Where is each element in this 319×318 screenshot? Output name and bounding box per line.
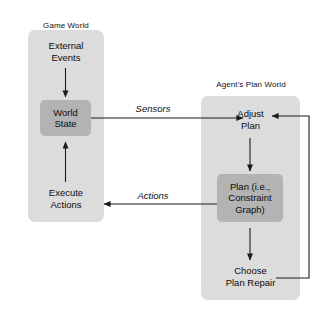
arrow-layer <box>0 0 319 318</box>
diagram-canvas: Game World External Events World State E… <box>0 0 319 318</box>
arrow-feedback-loop <box>272 116 309 278</box>
